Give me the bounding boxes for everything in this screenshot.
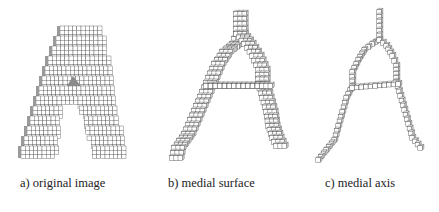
voxel-panel-b [170, 10, 288, 160]
voxel-panel-a [18, 26, 126, 159]
caption-medial-axis: c) medial axis [325, 176, 395, 191]
voxel-panel-c [316, 8, 424, 162]
voxel-renderings [0, 0, 439, 170]
caption-medial-surface: b) medial surface [168, 176, 255, 191]
caption-original-image: a) original image [20, 176, 105, 191]
